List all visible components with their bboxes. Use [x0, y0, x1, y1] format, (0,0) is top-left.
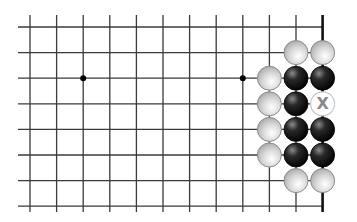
- white-stone[interactable]: [284, 41, 308, 65]
- go-board: X: [0, 0, 357, 222]
- star-point: [240, 75, 246, 81]
- white-stone[interactable]: [257, 143, 281, 167]
- white-stone[interactable]: [257, 66, 281, 90]
- white-stone[interactable]: [284, 169, 308, 193]
- marked-point[interactable]: X: [311, 92, 335, 116]
- white-stone[interactable]: [257, 117, 281, 141]
- black-stone[interactable]: [311, 143, 335, 167]
- black-stone[interactable]: [284, 117, 308, 141]
- white-stone[interactable]: [257, 92, 281, 116]
- black-stone[interactable]: [311, 66, 335, 90]
- white-stone[interactable]: [311, 169, 335, 193]
- white-stone[interactable]: [311, 41, 335, 65]
- black-stone[interactable]: [311, 117, 335, 141]
- x-mark-label: X: [316, 94, 329, 113]
- black-stone[interactable]: [284, 92, 308, 116]
- black-stone[interactable]: [284, 143, 308, 167]
- black-stone[interactable]: [284, 66, 308, 90]
- star-point: [80, 75, 86, 81]
